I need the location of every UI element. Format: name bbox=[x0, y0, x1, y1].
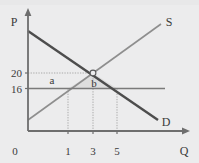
x-tick-label-5: 5 bbox=[114, 145, 120, 157]
y-axis-arrow bbox=[25, 8, 32, 16]
x-tick-label-1: 1 bbox=[65, 145, 71, 157]
supply-curve-label: S bbox=[166, 15, 173, 29]
supply-demand-chart: P Q 0 20 16 1 3 5 S D a b bbox=[0, 0, 199, 163]
origin-label: 0 bbox=[12, 145, 18, 157]
equilibrium-point-marker bbox=[90, 70, 96, 76]
y-axis-label: P bbox=[11, 15, 18, 29]
x-tick-label-3: 3 bbox=[90, 145, 96, 157]
y-tick-label-20: 20 bbox=[11, 67, 23, 79]
chart-canvas: P Q 0 20 16 1 3 5 S D a b bbox=[0, 0, 199, 163]
x-axis-label: Q bbox=[180, 144, 189, 158]
region-a-label: a bbox=[50, 74, 55, 86]
demand-curve-label: D bbox=[162, 115, 171, 129]
y-tick-label-16: 16 bbox=[11, 83, 23, 95]
region-b-label: b bbox=[91, 77, 97, 89]
x-axis-arrow bbox=[182, 128, 190, 135]
